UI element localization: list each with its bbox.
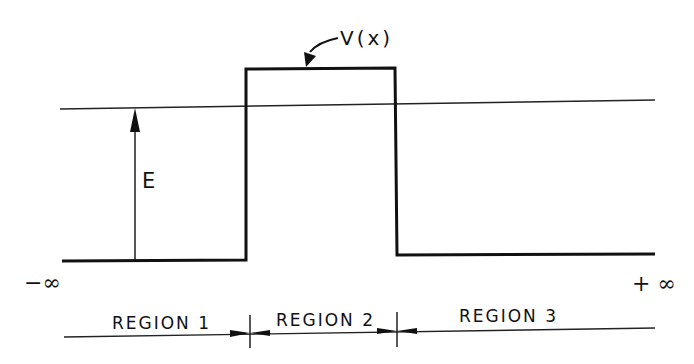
plus-infinity-label: + ∞ bbox=[632, 271, 676, 296]
energy-arrow bbox=[130, 108, 140, 261]
potential-pointer-arrow bbox=[304, 38, 338, 67]
potential-barrier-diagram: E V(x) −∞ + ∞ REGION 1 REGION 2 REGION 3 bbox=[0, 0, 694, 364]
region-1-label: REGION 1 bbox=[112, 313, 211, 333]
energy-level-line bbox=[60, 100, 655, 109]
region-divider-2 bbox=[377, 312, 417, 347]
potential-profile bbox=[62, 68, 655, 261]
energy-label: E bbox=[142, 169, 155, 193]
region-2-label: REGION 2 bbox=[276, 310, 375, 330]
minus-infinity-label: −∞ bbox=[24, 270, 61, 295]
region-divider-1 bbox=[230, 315, 270, 348]
potential-label: V(x) bbox=[340, 26, 393, 50]
region-3-label: REGION 3 bbox=[459, 306, 558, 326]
